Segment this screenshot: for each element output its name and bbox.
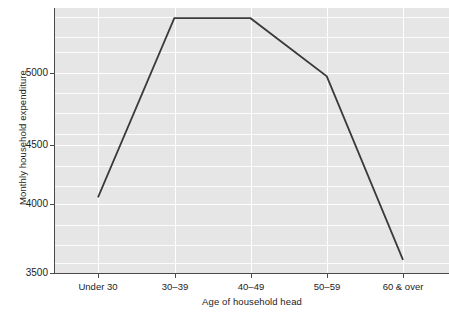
- x-tick-label-30-39: 30–39: [162, 281, 188, 292]
- chart-figure: Monthly household expenditure 3500: [0, 0, 449, 313]
- series-polyline: [98, 18, 403, 260]
- x-tick-label-under-30: Under 30: [78, 281, 117, 292]
- x-axis-title: Age of household head: [55, 296, 449, 307]
- y-tick-label: 4500: [26, 140, 48, 150]
- x-tick-mark: [175, 274, 176, 278]
- x-tick-mark: [403, 274, 404, 278]
- y-tick-label: 5000: [26, 68, 48, 78]
- y-tick-mark: [50, 73, 54, 74]
- y-tick-label: 4000: [26, 199, 48, 209]
- y-axis-line: [54, 8, 55, 274]
- x-tick-label-40-49: 40–49: [238, 281, 264, 292]
- y-tick-mark: [50, 204, 54, 205]
- y-tick-label: 3500: [26, 268, 48, 278]
- x-tick-mark: [251, 274, 252, 278]
- x-tick-label-50-59: 50–59: [314, 281, 340, 292]
- x-tick-mark: [98, 274, 99, 278]
- x-axis-line: [55, 273, 449, 274]
- y-tick-mark: [50, 273, 54, 274]
- plot-area: [55, 8, 449, 273]
- line-series: [55, 8, 449, 273]
- y-tick-mark: [50, 145, 54, 146]
- y-axis-title: Monthly household expenditure: [17, 18, 28, 258]
- x-tick-mark: [327, 274, 328, 278]
- x-tick-label-60-over: 60 & over: [383, 281, 424, 292]
